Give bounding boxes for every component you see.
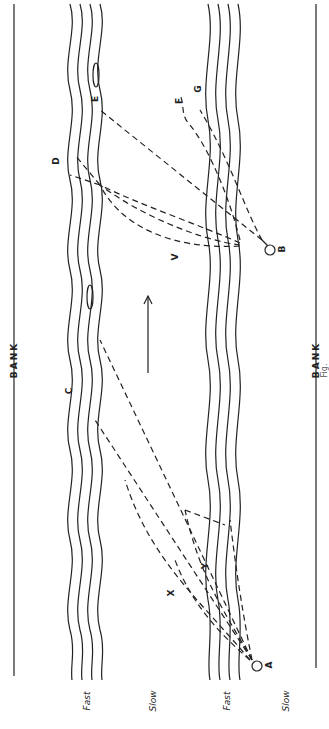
path-label-f: F (174, 98, 184, 104)
figure-caption-partial: Fig. (320, 364, 329, 378)
zone-label-slow-center: Slow (148, 690, 158, 711)
point-b-label: B (277, 246, 287, 253)
river-crossing-diagram (0, 0, 329, 729)
zone-label-slow-right: Slow (281, 690, 291, 711)
zone-label-fast-right: Fast (222, 692, 232, 711)
path-label-v: V (170, 254, 180, 261)
point-a-marker (252, 661, 262, 671)
point-a-label: A (264, 662, 274, 669)
zone-label-fast-left: Fast (82, 692, 92, 711)
left-bank-label: BANK (9, 342, 19, 378)
current-arrow (144, 296, 152, 373)
path-label-g: G (193, 85, 203, 92)
path-label-c: C (64, 388, 74, 395)
right-fast-band (206, 4, 241, 680)
path-label-x: X (166, 590, 176, 597)
b-connector (262, 240, 268, 246)
path-label-d: D (51, 157, 61, 164)
paths-from-a (95, 340, 252, 660)
point-b-marker (265, 245, 275, 255)
path-label-y: Y (200, 563, 210, 570)
left-fast-band (68, 4, 103, 680)
path-label-e: E (90, 96, 100, 102)
